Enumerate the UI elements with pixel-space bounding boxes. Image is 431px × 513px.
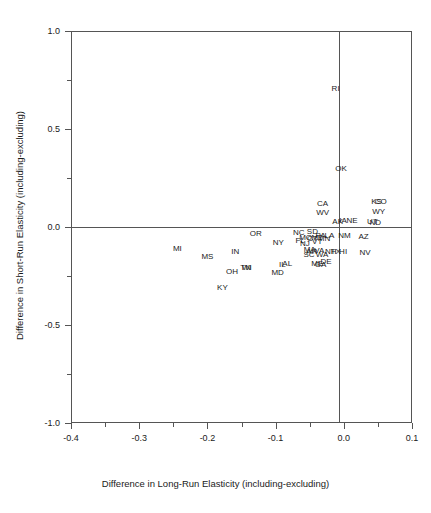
x-tick-major: [139, 423, 140, 429]
x-tick-label: -0.3: [119, 434, 159, 443]
data-point-label-mi: MI: [173, 245, 182, 253]
y-tick-minor: [67, 178, 71, 179]
data-point-label-ri: RI: [332, 85, 340, 93]
y-tick-minor: [67, 80, 71, 81]
data-point-label-ne: NE: [346, 217, 357, 225]
data-point-label-nd: ND: [369, 219, 381, 227]
data-point-label-co: CO: [375, 198, 387, 206]
y-tick-label: 1.0: [28, 27, 60, 36]
data-point-label-in: IN: [231, 248, 239, 256]
y-tick-major: [65, 31, 71, 32]
y-tick-label: 0.0: [28, 223, 60, 232]
data-point-label-hi: HI: [339, 248, 347, 256]
x-axis-title: Difference in Long-Run Elasticity (inclu…: [0, 478, 431, 489]
clipped-header-text: [0, 0, 431, 6]
data-point-label-al: AL: [282, 260, 292, 268]
zero-horizontal-reference-line: [71, 227, 412, 228]
data-point-label-or: OR: [250, 230, 262, 238]
y-axis-title: Difference in Short-Run Elasticity (incl…: [14, 111, 25, 340]
y-tick-minor: [67, 276, 71, 277]
x-tick-major: [276, 423, 277, 429]
x-tick-label: 0.1: [392, 434, 431, 443]
x-tick-major: [412, 423, 413, 429]
y-tick-label: -0.5: [28, 321, 60, 330]
data-point-label-oh: OH: [226, 268, 238, 276]
x-tick-major: [207, 423, 208, 429]
x-tick-minor: [310, 423, 311, 427]
data-point-label-ms: MS: [201, 253, 213, 261]
data-point-label-ky: KY: [217, 284, 228, 292]
data-point-label-ga: GA: [315, 261, 327, 269]
scatter-plot-figure: -1.0-0.50.00.51.0 -0.4-0.3-0.2-0.10.00.1…: [0, 0, 431, 513]
y-tick-major: [65, 325, 71, 326]
x-tick-label: -0.1: [256, 434, 296, 443]
x-tick-major: [344, 423, 345, 429]
data-point-label-ok: OK: [335, 165, 347, 173]
x-tick-label: -0.2: [187, 434, 227, 443]
y-tick-major: [65, 129, 71, 130]
data-point-label-wi: WI: [242, 264, 252, 272]
y-tick-minor: [67, 374, 71, 375]
data-point-label-az: AZ: [358, 233, 368, 241]
data-point-label-wy: WY: [372, 208, 385, 216]
data-point-label-nm: NM: [338, 232, 350, 240]
y-tick-label: 0.5: [28, 125, 60, 134]
x-tick-minor: [173, 423, 174, 427]
x-tick-major: [71, 423, 72, 429]
x-tick-minor: [378, 423, 379, 427]
data-point-label-ny: NY: [273, 239, 284, 247]
data-point-label-ca: CA: [317, 200, 328, 208]
y-tick-major: [65, 227, 71, 228]
x-tick-minor: [242, 423, 243, 427]
data-point-label-md: MD: [271, 269, 283, 277]
data-point-label-sc: SC: [303, 251, 314, 259]
y-tick-label: -1.0: [28, 419, 60, 428]
x-tick-label: -0.4: [51, 434, 91, 443]
x-tick-label: 0.0: [324, 434, 364, 443]
data-point-label-nv: NV: [359, 249, 370, 257]
x-tick-minor: [105, 423, 106, 427]
data-point-label-wv: WV: [316, 209, 329, 217]
